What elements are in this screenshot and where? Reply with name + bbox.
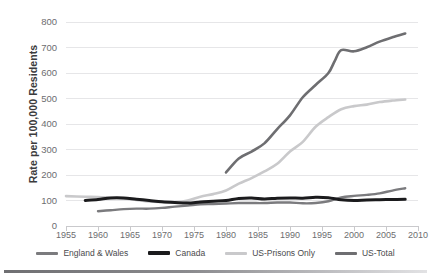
legend-item[interactable]: England & Wales <box>36 249 128 258</box>
y-tick-label: 300 <box>17 145 57 155</box>
y-tick-label: 400 <box>17 119 57 129</box>
y-tick-label: 100 <box>17 196 57 206</box>
legend-swatch-canada <box>148 251 170 255</box>
legend-label: England & Wales <box>63 249 128 258</box>
y-tick-label: 700 <box>17 43 57 53</box>
y-tick-label: 0 <box>17 221 57 231</box>
legend-swatch-england-wales <box>36 252 58 255</box>
y-tick-label: 600 <box>17 68 57 78</box>
bottom-rule-divider <box>4 270 427 273</box>
series-line-us-prisons-only <box>66 100 405 203</box>
legend-label: US-Prisons Only <box>252 249 315 258</box>
plot-area <box>66 22 418 226</box>
x-tick-label: 2010 <box>398 231 431 240</box>
plot-svg <box>66 22 418 226</box>
y-tick-label: 800 <box>17 17 57 27</box>
legend-label: Canada <box>175 249 205 258</box>
legend-item[interactable]: US-Total <box>335 249 395 258</box>
chart-legend: England & WalesCanadaUS-Prisons OnlyUS-T… <box>0 249 431 258</box>
legend-swatch-us-prisons-only <box>225 252 247 255</box>
legend-label: US-Total <box>362 249 395 258</box>
legend-item[interactable]: Canada <box>148 249 205 258</box>
chart-figure: Rate per 100,000 Residents 8007006005004… <box>0 0 431 279</box>
legend-swatch-us-total <box>335 252 357 255</box>
y-tick-label: 200 <box>17 170 57 180</box>
y-tick-label: 500 <box>17 94 57 104</box>
legend-item[interactable]: US-Prisons Only <box>225 249 315 258</box>
